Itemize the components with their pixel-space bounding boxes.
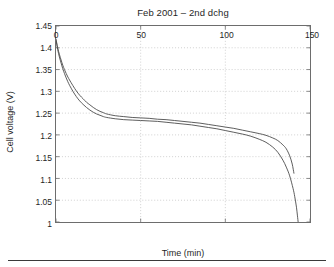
x-axis-label: Time (min) [55, 248, 311, 258]
y-tick-label: 1.45 [35, 21, 52, 31]
plot-canvas [56, 26, 310, 222]
chart-figure: Feb 2001 – 2nd dchg Cell voltage (V) 11.… [0, 0, 334, 267]
y-tick-label: 1.2 [40, 131, 52, 141]
data-curves [56, 39, 298, 222]
y-tick-label: 1.1 [40, 175, 52, 185]
x-tick-label: 0 [54, 30, 59, 40]
y-tick-label: 1.15 [35, 153, 52, 163]
x-tick-label: 150 [305, 30, 319, 40]
chart-title: Feb 2001 – 2nd dchg [55, 7, 311, 18]
y-tick-label: 1.4 [40, 43, 52, 53]
page-divider-rule [8, 260, 326, 261]
y-tick-label: 1.3 [40, 87, 52, 97]
y-tick-label: 1.25 [35, 109, 52, 119]
x-tick-label: 50 [137, 30, 146, 40]
y-tick-label: 1.35 [35, 65, 52, 75]
x-tick-label: 100 [220, 30, 234, 40]
y-axis-label: Cell voltage (V) [5, 63, 15, 181]
y-tick-label: 1.05 [35, 197, 52, 207]
y-tick-label: 1 [47, 219, 52, 229]
y-axis-label-wrapper: Cell voltage (V) [0, 25, 20, 223]
plot-area: 11.051.11.151.21.251.31.351.41.45 050100… [55, 25, 311, 223]
